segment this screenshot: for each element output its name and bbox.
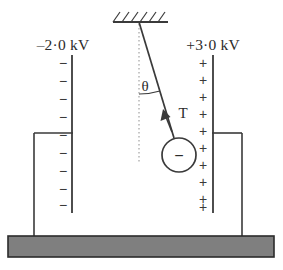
base-slab <box>8 236 274 257</box>
ceiling-hatch-group <box>113 12 165 22</box>
right-support-bracket <box>212 133 242 237</box>
angle-theta-label: θ <box>141 78 148 94</box>
charge-sign-plus: + <box>199 72 207 88</box>
charge-sign-minus: − <box>59 73 67 89</box>
physics-diagram-pendulum-between-plates: − − − − − − − − − − + + + + <box>0 0 283 270</box>
charge-sign-minus: − <box>59 91 67 107</box>
charge-sign-plus: + <box>199 123 207 139</box>
charge-sign-minus: − <box>59 109 67 125</box>
ceiling-hatch-mark <box>122 12 129 22</box>
ceiling-hatch-mark <box>131 12 138 22</box>
charge-sign-plus: + <box>199 157 207 173</box>
ceiling-hatch-mark <box>149 12 156 22</box>
ceiling-hatch-mark <box>158 12 165 22</box>
right-plate-group: + + + + + + + + + + <box>199 55 213 215</box>
charge-sign-minus: − <box>59 127 67 143</box>
charge-sign-plus: + <box>199 55 207 71</box>
diagram-canvas: − − − − − − − − − − + + + + <box>0 0 283 270</box>
charge-sign-plus: + <box>199 89 207 105</box>
charge-sign-minus: − <box>59 163 67 179</box>
ceiling-support-group <box>113 12 168 22</box>
ceiling-hatch-mark <box>140 12 147 22</box>
left-plate-group: − − − − − − − − − <box>59 55 72 213</box>
pendulum-bob-group: − <box>162 138 196 172</box>
tension-label: T <box>178 105 187 121</box>
charge-sign-minus: − <box>59 55 67 71</box>
positive-charge-signs: + + + + + + + + + + <box>199 55 207 215</box>
charge-sign-minus: − <box>59 197 67 213</box>
right-plate-voltage-label: +3·0 kV <box>186 36 240 53</box>
charge-sign-plus: + <box>199 140 207 156</box>
ceiling-hatch-mark <box>113 12 120 22</box>
negative-charge-signs: − − − − − − − − − <box>59 55 67 213</box>
left-support-bracket <box>34 133 73 237</box>
charge-sign-plus: + <box>199 174 207 190</box>
bob-charge-sign: − <box>174 147 183 164</box>
charge-sign-minus: − <box>59 181 67 197</box>
charge-sign-minus: − <box>59 145 67 161</box>
left-plate-voltage-label: –2·0 kV <box>36 36 90 53</box>
charge-sign-plus: + <box>199 199 207 215</box>
charge-sign-plus: + <box>199 106 207 122</box>
